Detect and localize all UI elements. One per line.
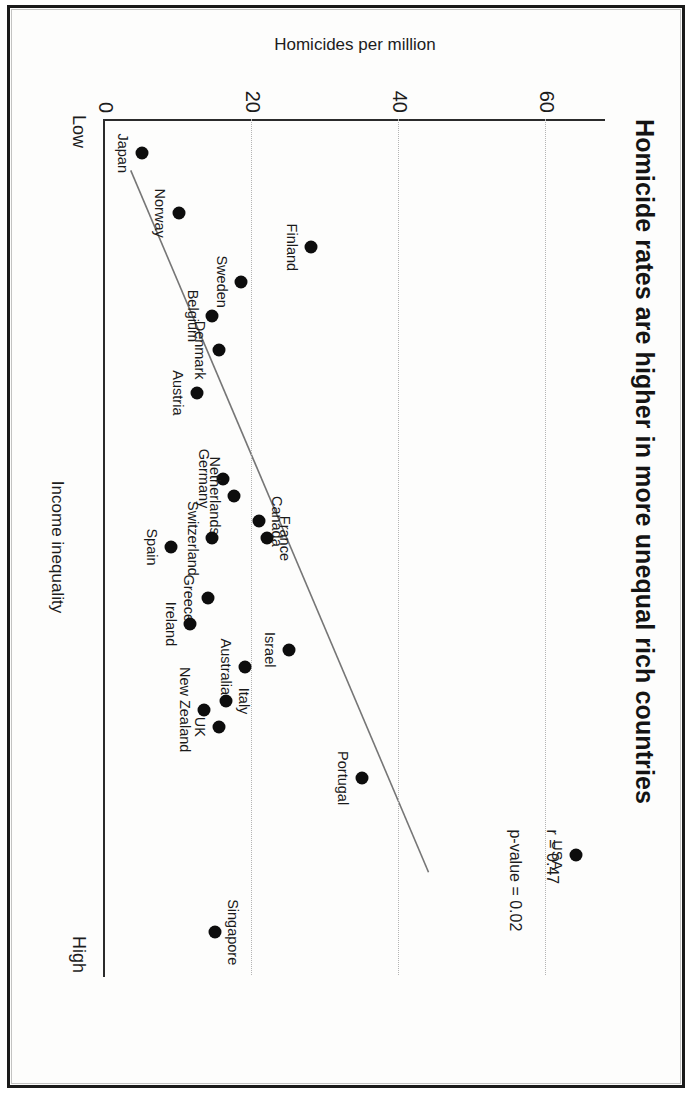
scatter-point[interactable] xyxy=(220,695,233,708)
chart-title: Homicide rates are higher in more unequa… xyxy=(630,119,659,804)
scatter-point-label: Singapore xyxy=(225,899,241,965)
scatter-point[interactable] xyxy=(227,489,240,502)
trendline xyxy=(105,119,605,975)
scatter-point-label: Switzerland xyxy=(185,501,201,576)
scatter-point-label: Portugal xyxy=(335,751,351,805)
scatter-point-label: Austria xyxy=(170,370,186,415)
scatter-point[interactable] xyxy=(190,386,203,399)
scatter-point-label: Israel xyxy=(262,632,278,667)
scatter-point[interactable] xyxy=(205,532,218,545)
gridline xyxy=(251,119,252,975)
screenshot-page: Homicide rates are higher in more unequa… xyxy=(0,0,694,1094)
stat-annotation: p-value = 0.02 xyxy=(506,829,524,931)
scatter-point-label: France xyxy=(277,516,293,561)
rotated-chart-container: Homicide rates are higher in more unequa… xyxy=(27,27,667,1067)
scatter-point[interactable] xyxy=(198,703,211,716)
y-axis-tick-label: 40 xyxy=(388,91,411,113)
x-axis-tick-low: Low xyxy=(68,115,89,148)
scatter-point[interactable] xyxy=(304,241,317,254)
x-axis-tick-high: High xyxy=(68,936,89,973)
y-axis-tick-label: 60 xyxy=(535,91,558,113)
scatter-point[interactable] xyxy=(356,772,369,785)
scatter-point-label: Greece xyxy=(181,575,197,623)
scatter-point[interactable] xyxy=(209,926,222,939)
scatter-point[interactable] xyxy=(235,275,248,288)
scatter-point-label: Norway xyxy=(152,189,168,238)
scatter-point-label: Sweden xyxy=(214,255,230,307)
scatter-point-label: Japan xyxy=(115,133,131,173)
scatter-point-label: Australia xyxy=(218,639,234,695)
scatter-point-label: Spain xyxy=(144,528,160,565)
scatter-point-label: Ireland xyxy=(163,602,179,646)
scatter-point[interactable] xyxy=(238,660,251,673)
scatter-point-label: Finland xyxy=(284,224,300,272)
scatter-point[interactable] xyxy=(165,541,178,554)
y-axis-tick-label: 0 xyxy=(94,102,117,113)
scatter-point[interactable] xyxy=(212,344,225,357)
scatter-point[interactable] xyxy=(260,532,273,545)
scatter-point[interactable] xyxy=(212,720,225,733)
scatter-point[interactable] xyxy=(135,147,148,160)
y-axis-label: Homicides per million xyxy=(274,35,436,55)
scatter-point[interactable] xyxy=(282,643,295,656)
scatter-point-label: Denmark xyxy=(192,321,208,380)
scatter-point-label: Italy xyxy=(236,688,252,715)
scatter-point[interactable] xyxy=(569,849,582,862)
y-axis-tick-label: 20 xyxy=(241,91,264,113)
scatter-point[interactable] xyxy=(183,618,196,631)
scatter-point[interactable] xyxy=(253,515,266,528)
scatter-point-label: UK xyxy=(192,717,208,737)
scatter-point-label: Netherlands xyxy=(207,457,223,535)
plot-area: JapanNorwayFinlandSwedenBelgiumDenmarkAu… xyxy=(105,119,605,975)
scatter-point[interactable] xyxy=(172,207,185,220)
stat-annotation: r = 0.47 xyxy=(543,829,561,884)
scatter-point[interactable] xyxy=(201,592,214,605)
scatter-point-label: New Zealand xyxy=(177,667,193,752)
gridline xyxy=(398,119,399,975)
x-axis-label: Income inequality xyxy=(47,481,67,613)
